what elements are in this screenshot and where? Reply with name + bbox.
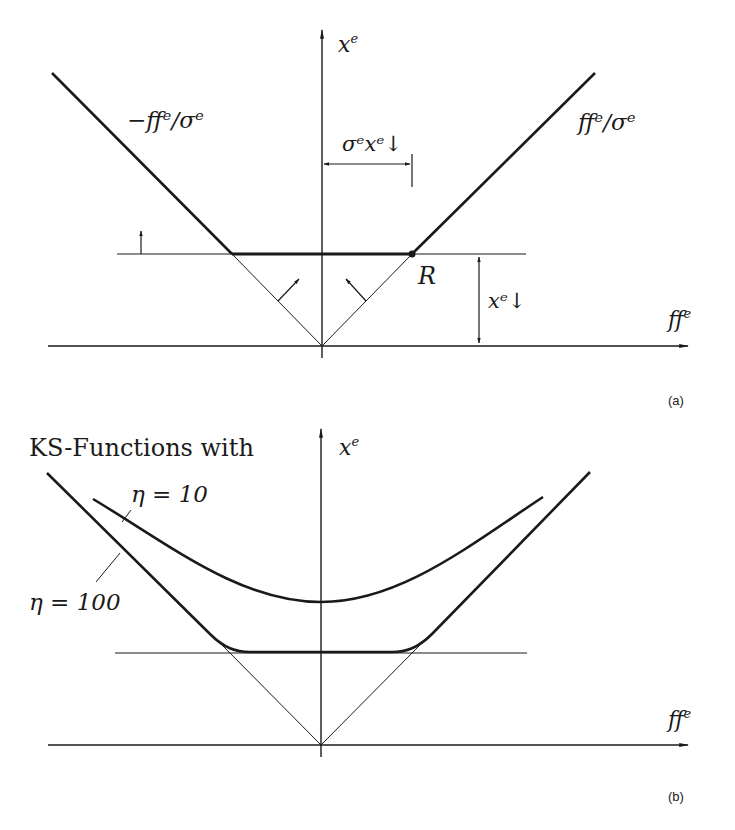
y-axis-label-a: xe	[338, 31, 358, 57]
right-v-line-b	[321, 645, 420, 745]
left-bound-line	[52, 73, 232, 254]
right-v-line	[322, 254, 412, 346]
left-v-line	[232, 254, 322, 346]
ks-title: KS-Functions with	[29, 434, 254, 462]
caption-b: (b)	[668, 789, 684, 804]
x-axis-label-b: ffe	[666, 706, 692, 732]
point-r-label: R	[417, 262, 436, 290]
width-dim-label: σᵉxᵉ↓	[342, 132, 402, 156]
eta-100-label: η = 100	[29, 589, 121, 615]
height-dim-label: xᵉ↓	[488, 289, 526, 313]
eta-100-leader	[96, 553, 120, 582]
right-bound-line	[412, 73, 595, 254]
panel-a: R σᵉxᵉ↓ xᵉ↓ xe ffe −ffᵉ/σᵉ ffᵉ/σᵉ (a)	[48, 30, 692, 408]
left-line-label: −ffᵉ/σᵉ	[127, 107, 204, 133]
point-r-marker	[409, 251, 416, 258]
right-line-label: ffᵉ/σᵉ	[576, 109, 636, 135]
normal-arrow-right	[346, 279, 366, 301]
y-axis-label-b: xe	[339, 434, 359, 460]
ks-curve-eta-100	[47, 472, 590, 652]
normal-arrow-left	[278, 279, 299, 301]
caption-a: (a)	[668, 393, 684, 408]
eta-10-label: η = 10	[131, 481, 208, 507]
panel-b: KS-Functions with η = 10 η = 100 xe ffe …	[29, 429, 692, 804]
x-axis-label-a: ffe	[666, 306, 692, 332]
figure-canvas: R σᵉxᵉ↓ xᵉ↓ xe ffe −ffᵉ/σᵉ ffᵉ/σᵉ (a) KS…	[0, 0, 735, 830]
left-v-line-b	[222, 645, 321, 745]
